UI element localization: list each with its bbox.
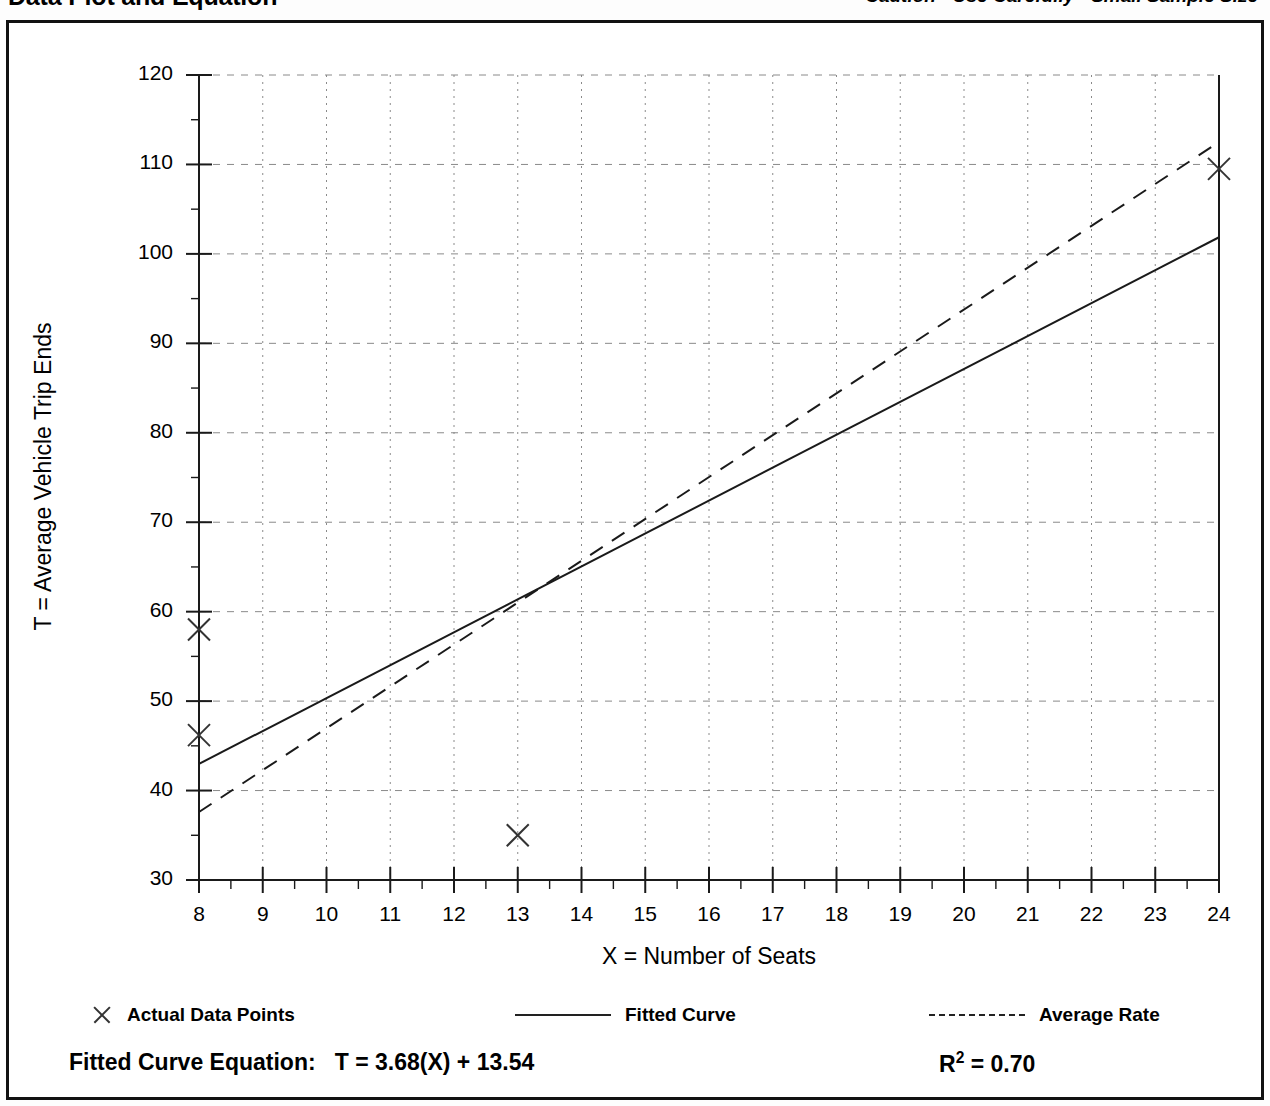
page-header: Data Plot and Equation Caution - Use Car…: [0, 0, 1270, 18]
chart-page: Data Plot and Equation Caution - Use Car…: [0, 0, 1270, 1106]
chart-frame: T = Average Vehicle Trip Ends X = Number…: [6, 20, 1264, 1100]
y-tick-label: 80: [113, 419, 173, 443]
equation-row: Fitted Curve Equation: T = 3.68(X) + 13.…: [9, 1045, 1261, 1091]
x-axis-title: X = Number of Seats: [189, 943, 1229, 970]
legend-item-fitted-curve: Fitted Curve: [515, 1004, 736, 1026]
x-tick-label: 16: [679, 902, 739, 926]
chart-svg: [9, 23, 1261, 1097]
y-tick-label: 70: [113, 508, 173, 532]
r-squared-value: = 0.70: [971, 1051, 1036, 1077]
y-tick-label: 50: [113, 687, 173, 711]
x-tick-label: 18: [807, 902, 867, 926]
legend-item-average-rate: Average Rate: [929, 1004, 1160, 1026]
r-squared-label: R: [939, 1051, 956, 1077]
x-tick-label: 12: [424, 902, 484, 926]
x-marker-icon: [91, 1004, 113, 1026]
caution-note: Caution - Use Carefully - Small Sample S…: [865, 0, 1258, 7]
x-tick-label: 17: [743, 902, 803, 926]
legend-label-fitted-curve: Fitted Curve: [625, 1004, 736, 1026]
y-tick-label: 110: [113, 150, 173, 174]
x-tick-label: 24: [1189, 902, 1249, 926]
r-squared: R2 = 0.70: [939, 1049, 1035, 1078]
plot-area: T = Average Vehicle Trip Ends X = Number…: [9, 23, 1261, 1097]
fitted-equation-value: T = 3.68(X) + 13.54: [335, 1049, 534, 1075]
x-tick-label: 22: [1062, 902, 1122, 926]
fitted-equation: Fitted Curve Equation: T = 3.68(X) + 13.…: [69, 1049, 534, 1076]
x-tick-label: 20: [934, 902, 994, 926]
x-tick-label: 9: [233, 902, 293, 926]
x-tick-label: 23: [1125, 902, 1185, 926]
page-title: Data Plot and Equation: [8, 0, 277, 11]
x-tick-label: 14: [552, 902, 612, 926]
x-tick-label: 8: [169, 902, 229, 926]
y-tick-label: 100: [113, 240, 173, 264]
y-axis-title: T = Average Vehicle Trip Ends: [30, 197, 57, 757]
legend-label-average-rate: Average Rate: [1039, 1004, 1160, 1026]
y-tick-label: 30: [113, 866, 173, 890]
x-tick-label: 21: [998, 902, 1058, 926]
y-tick-label: 60: [113, 598, 173, 622]
y-tick-label: 40: [113, 777, 173, 801]
x-tick-label: 13: [488, 902, 548, 926]
x-tick-label: 15: [615, 902, 675, 926]
x-tick-label: 11: [360, 902, 420, 926]
y-tick-label: 120: [113, 61, 173, 85]
y-tick-label: 90: [113, 329, 173, 353]
chart-legend: Actual Data Points Fitted Curve Average …: [9, 998, 1261, 1042]
solid-line-icon: [515, 1014, 611, 1016]
legend-item-data-points: Actual Data Points: [91, 1004, 295, 1026]
x-tick-label: 19: [870, 902, 930, 926]
x-tick-label: 10: [297, 902, 357, 926]
r-squared-exponent: 2: [956, 1049, 965, 1066]
fitted-equation-label: Fitted Curve Equation:: [69, 1049, 316, 1075]
dashed-line-icon: [929, 1014, 1025, 1016]
legend-label-data-points: Actual Data Points: [127, 1004, 295, 1026]
